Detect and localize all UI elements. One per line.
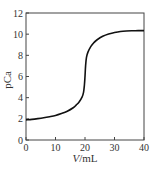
y-tick-label: 4 [18, 92, 23, 103]
y-tick-label: 2 [18, 113, 23, 124]
titration-chart: 024681012 010203040 pCa V/mL [0, 0, 162, 171]
y-axis-ticks: 024681012 [13, 8, 29, 146]
y-tick-label: 0 [18, 135, 23, 146]
y-tick-label: 12 [13, 8, 23, 19]
x-tick-label: 10 [51, 142, 61, 153]
titration-curve-line [26, 31, 144, 120]
x-tick-label: 40 [139, 142, 149, 153]
x-axis-ticks: 010203040 [24, 137, 150, 153]
y-axis-label: pCa [1, 71, 13, 89]
y-tick-label: 8 [18, 50, 23, 61]
x-axis-label-unit: /mL [79, 152, 98, 164]
x-axis-label: V/mL [72, 152, 97, 164]
x-tick-label: 30 [110, 142, 120, 153]
y-tick-label: 10 [13, 29, 23, 40]
x-tick-label: 0 [24, 142, 29, 153]
y-tick-label: 6 [18, 71, 23, 82]
